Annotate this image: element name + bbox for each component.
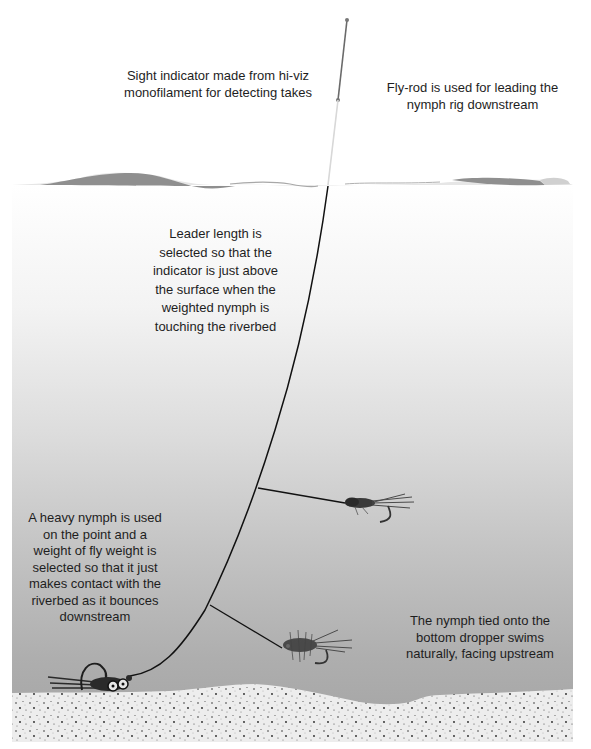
bottom-dropper-tag bbox=[210, 605, 282, 648]
bottom-dropper-nymph bbox=[283, 630, 352, 663]
upper-dropper-nymph bbox=[345, 494, 414, 522]
sight-indicator bbox=[328, 100, 338, 185]
riverbed bbox=[12, 684, 573, 742]
point-nymph bbox=[48, 664, 132, 691]
fly-rod-tip bbox=[338, 20, 347, 100]
sight-indicator-label: Sight indicator made from hi-viz monofil… bbox=[108, 68, 328, 101]
heavy-nymph-label: A heavy nymph is used on the point and a… bbox=[20, 510, 170, 626]
fly-rod-label: Fly-rod is used for leading the nymph ri… bbox=[370, 80, 575, 113]
rod-tip-ring-icon bbox=[345, 18, 349, 22]
upper-dropper-tag bbox=[258, 488, 345, 503]
water-surface bbox=[12, 173, 573, 189]
leader-length-label: Leader length is selected so that the in… bbox=[138, 225, 293, 336]
bottom-dropper-label: The nymph tied onto the bottom dropper s… bbox=[380, 613, 580, 663]
